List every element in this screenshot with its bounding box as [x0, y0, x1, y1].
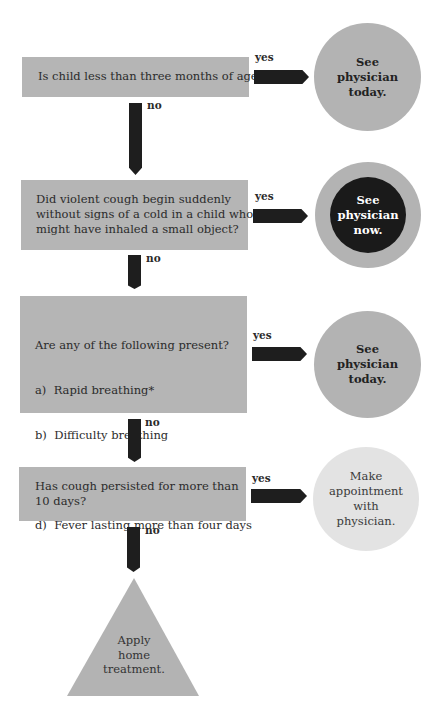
no-arrow — [128, 419, 141, 462]
outcome-see-physician-now: See physician now. — [315, 162, 421, 268]
question-text: Are any of the following present? a) Rap… — [35, 308, 252, 563]
question-text: Has cough persisted for more than 10 day… — [35, 479, 239, 509]
question-box-inhaled-object: Did violent cough begin suddenly without… — [21, 180, 248, 250]
yes-arrow — [254, 70, 309, 84]
question-text: Did violent cough begin suddenly without… — [36, 192, 253, 237]
yes-label: yes — [255, 51, 274, 63]
no-arrow — [127, 527, 140, 572]
outcome-text: Make appointment with physician. — [329, 469, 403, 529]
question-box-age: Is child less than three months of age? — [22, 57, 249, 97]
no-label: no — [145, 524, 160, 536]
no-arrow — [128, 255, 141, 289]
yes-label: yes — [252, 472, 271, 484]
yes-arrow — [251, 489, 307, 503]
question-text: Is child less than three months of age? — [38, 69, 264, 84]
question-box-symptoms: Are any of the following present? a) Rap… — [20, 296, 247, 413]
final-outcome-text: Apply home treatment. — [94, 633, 174, 677]
outcome-text: See physician today. — [337, 55, 398, 100]
no-arrow — [129, 103, 142, 175]
outcome-text: See physician now. — [337, 193, 398, 238]
no-label: no — [145, 416, 160, 428]
urgent-inner-circle: See physician now. — [330, 177, 406, 253]
yes-label: yes — [255, 190, 274, 202]
outcome-text: See physician today. — [337, 342, 398, 387]
question-box-duration: Has cough persisted for more than 10 day… — [19, 467, 246, 521]
yes-label: yes — [253, 329, 272, 341]
outcome-see-physician-today: See physician today. — [314, 311, 421, 418]
no-label: no — [147, 99, 162, 111]
no-label: no — [146, 252, 161, 264]
yes-arrow — [253, 209, 308, 223]
outcome-see-physician-today: See physician today. — [314, 23, 421, 131]
outcome-make-appointment: Make appointment with physician. — [313, 447, 419, 551]
yes-arrow — [252, 347, 307, 361]
